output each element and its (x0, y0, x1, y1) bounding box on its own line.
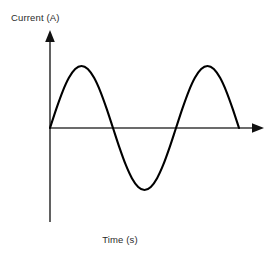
y-axis-label: Current (A) (11, 12, 60, 23)
x-axis-arrow-icon (252, 123, 264, 133)
sine-wave-figure: Current (A) Time (s) (0, 0, 274, 255)
plot-canvas (0, 0, 274, 255)
x-axis-label: Time (s) (0, 234, 240, 245)
y-axis-arrow-icon (45, 30, 55, 42)
